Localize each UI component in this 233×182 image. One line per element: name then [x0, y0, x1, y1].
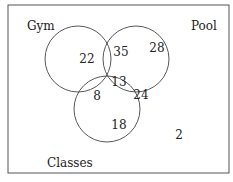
pool-label: Pool — [191, 19, 217, 33]
gym-label: Gym — [27, 19, 55, 33]
region-pool-classes: 24 — [133, 88, 149, 102]
region-gym-classes: 8 — [93, 89, 101, 103]
region-none: 2 — [175, 128, 183, 142]
classes-circle — [74, 76, 140, 142]
region-classes-only: 18 — [111, 118, 126, 132]
region-pool-only: 28 — [149, 41, 164, 55]
gym-circle — [45, 26, 111, 92]
classes-label: Classes — [47, 156, 93, 170]
region-all-three: 13 — [111, 75, 126, 89]
region-gym-pool: 35 — [113, 45, 128, 59]
venn-diagram: Gym Pool Classes 22 35 28 13 8 24 18 2 — [0, 0, 233, 182]
region-gym-only: 22 — [79, 52, 94, 66]
